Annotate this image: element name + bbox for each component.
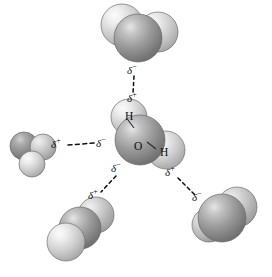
charge-label-top-upper: δ− (127, 63, 137, 76)
bottom-left-water-molecule (47, 197, 114, 261)
atom-label-hydrogen-right: H (160, 147, 168, 159)
charge-label-top-lower: δ+ (127, 91, 137, 104)
central-water-molecule (111, 99, 185, 169)
charge-sign: − (197, 189, 202, 198)
left-water-molecule (10, 132, 56, 177)
charge-sign: + (56, 136, 61, 145)
water-hydrogen-bonding-diagram: H O H δ− δ+ δ+ δ− δ− δ+ δ+ δ− (0, 0, 272, 277)
charge-label-bottom-right-outer: δ− (192, 190, 202, 203)
molecule-canvas (0, 0, 272, 277)
charge-label-left-inner: δ− (96, 136, 106, 149)
charge-label-left-outer: δ+ (51, 137, 61, 150)
charge-sign: + (132, 90, 137, 99)
charge-sign: − (101, 135, 106, 144)
charge-label-bottom-right-inner: δ+ (165, 165, 175, 178)
charge-sign: − (116, 160, 121, 169)
hydrogen-bond-bottom-left-line (101, 176, 116, 192)
charge-sign: + (170, 164, 175, 173)
charge-label-bottom-left-inner: δ− (111, 161, 121, 174)
charge-sign: − (132, 62, 137, 71)
atom-label-oxygen: O (134, 141, 142, 153)
charge-sign: + (93, 187, 98, 196)
hydrogen-bond-left-line (68, 143, 95, 145)
atom-label-hydrogen-top: H (125, 111, 133, 123)
top-water-molecule (101, 4, 178, 62)
charge-label-bottom-left-outer: δ+ (88, 188, 98, 201)
